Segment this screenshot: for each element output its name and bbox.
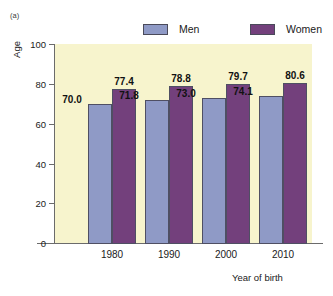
x-axis-title: Year of birth	[232, 272, 283, 283]
value-label-men-2000: 73.0	[169, 88, 203, 99]
bar-men-1980	[88, 104, 112, 244]
page-top-fragment: · ·	[42, 0, 162, 4]
bar-men-2000	[202, 98, 226, 244]
legend-label-women: Women	[286, 23, 322, 35]
value-label-women-1980: 77.4	[107, 76, 141, 87]
y-tick-100	[49, 44, 55, 45]
bar-women-2000	[226, 84, 250, 244]
bar-men-1990	[145, 100, 169, 244]
y-tick-0	[49, 243, 55, 244]
bar-men-2010	[259, 96, 283, 244]
legend-swatch-men	[143, 24, 168, 35]
x-tick-label-2010: 2010	[253, 249, 313, 260]
x-tick-label-1980: 1980	[82, 249, 142, 260]
y-tick-20	[49, 203, 55, 204]
y-tick-40	[49, 164, 55, 165]
value-label-women-2000: 79.7	[221, 71, 255, 82]
page-top-fragment-text: · ·	[42, 0, 60, 3]
y-tick-label-0: 0	[14, 239, 46, 249]
value-label-men-2010: 74.1	[226, 86, 260, 97]
legend-label-men: Men	[179, 23, 199, 35]
x-tick-label-1990: 1990	[139, 249, 199, 260]
legend-item-women: Women	[250, 21, 322, 37]
y-tick-label-80: 80	[14, 80, 46, 90]
y-tick-label-40: 40	[14, 160, 46, 170]
y-axis-title: Age	[11, 33, 22, 67]
value-label-men-1980: 70.0	[55, 94, 89, 105]
bar-women-2010	[283, 83, 307, 244]
legend-item-men: Men	[143, 21, 199, 37]
y-tick-60	[49, 124, 55, 125]
value-label-men-1990: 71.8	[112, 90, 146, 101]
y-tick-label-20: 20	[14, 199, 46, 209]
value-label-women-2010: 80.6	[278, 70, 312, 81]
value-label-women-1990: 78.8	[164, 73, 198, 84]
bar-women-1990	[169, 86, 193, 244]
y-axis-line	[54, 44, 55, 244]
y-tick-80	[49, 84, 55, 85]
bar-women-1980	[112, 89, 136, 244]
x-tick-label-2000: 2000	[196, 249, 256, 260]
y-tick-label-100: 100	[14, 40, 46, 50]
panel-label: (a)	[10, 11, 19, 20]
legend-swatch-women	[250, 24, 275, 35]
y-tick-label-60: 60	[14, 120, 46, 130]
chart-legend: Men Women	[143, 21, 329, 37]
